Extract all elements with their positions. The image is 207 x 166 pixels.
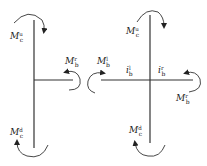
label-right-mcu: Muc xyxy=(125,26,140,38)
label-left-mbr: Mrb xyxy=(64,56,79,68)
moment-arrow-bottom-icon xyxy=(135,143,165,156)
left-joint: Muc Mrb Mdc xyxy=(9,14,80,157)
moment-arrow-right-icon xyxy=(186,72,201,92)
label-left-mcu: Muc xyxy=(9,31,24,43)
moment-arrow-right-icon xyxy=(66,71,80,90)
moment-diagram: Muc Mrb Mdc Muc Mlb ilb irb Mrb Mdc xyxy=(0,0,207,166)
label-right-mbr: Mrb xyxy=(175,93,190,105)
moment-arrow-top-icon xyxy=(14,14,44,31)
label-right-ibr: irb xyxy=(158,65,166,77)
label-right-mcd: Mdc xyxy=(128,125,143,137)
label-right-mbl: Mlb xyxy=(96,56,110,68)
moment-arrow-left-icon xyxy=(88,73,103,93)
label-right-ibl: ilb xyxy=(126,65,133,77)
moment-arrow-bottom-icon xyxy=(17,142,48,157)
label-left-mcd: Mdc xyxy=(9,127,24,139)
right-joint: Muc Mlb ilb irb Mrb Mdc xyxy=(88,11,201,157)
